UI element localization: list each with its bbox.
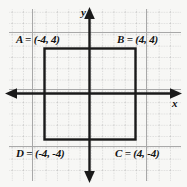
vertex-label-d: D = (-4, -4)	[16, 147, 64, 159]
coordinate-plane-figure: A = (-4, 4) B = (4, 4) D = (-4, -4) C = …	[0, 0, 187, 187]
vertex-label-b: B = (4, 4)	[117, 33, 158, 45]
vertex-label-c: C = (4, -4)	[115, 147, 159, 159]
x-axis-label: x	[172, 98, 178, 109]
y-axis-label: y	[81, 7, 86, 18]
square-abcd	[45, 49, 136, 140]
vertex-label-a: A = (-4, 4)	[16, 33, 60, 45]
